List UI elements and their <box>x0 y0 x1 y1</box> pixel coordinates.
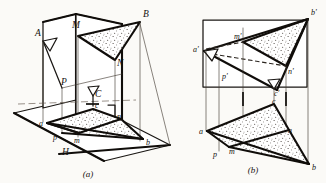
label-P: P <box>60 77 67 87</box>
label-m-prime: m' <box>234 32 242 41</box>
panel-a: A M B N P C a p m c n b H <box>14 9 170 161</box>
guide-b-to-h-corner <box>140 24 170 145</box>
label-N: N <box>116 58 124 68</box>
panel-b: a' m' b' n' p' c' c a n p m b <box>193 8 317 172</box>
descriptive-geometry-figure: A M B N P C a p m c n b H <box>0 0 326 183</box>
label-n-lower: n <box>117 112 121 121</box>
label-b-horizontal: b <box>312 163 316 172</box>
label-A: A <box>34 28 41 38</box>
caption-panel-b: (b) <box>248 165 259 175</box>
label-m-lower: m <box>74 136 80 145</box>
label-B: B <box>143 9 149 19</box>
label-n-horizontal: n <box>288 126 292 135</box>
label-p-prime: p' <box>221 72 228 81</box>
label-c-lower: c <box>95 101 99 110</box>
label-a-lower: a <box>39 119 43 128</box>
label-H-plane: H <box>61 147 70 157</box>
label-c-horizontal: c <box>272 97 276 106</box>
label-a-prime: a' <box>193 45 199 54</box>
caption-panel-a: (a) <box>83 169 94 179</box>
label-p-lower: p <box>52 133 57 142</box>
label-M: M <box>71 20 81 30</box>
label-n-prime: n' <box>288 67 294 76</box>
figure-container: A M B N P C a p m c n b H <box>0 0 326 183</box>
label-C: C <box>95 89 102 99</box>
label-b-prime: b' <box>311 8 317 17</box>
label-a-horizontal: a <box>199 127 203 136</box>
label-m-horizontal: m <box>229 147 235 156</box>
label-b-lower: b <box>146 138 150 147</box>
label-p-horizontal: p <box>212 150 217 159</box>
